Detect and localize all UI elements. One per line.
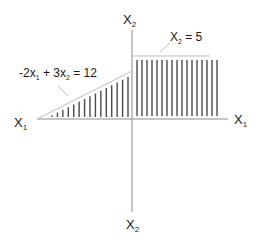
- hatch-left-region: [52, 77, 128, 117]
- x1-left-label: X1: [14, 115, 28, 132]
- constraint-label-x2-eq-5: X2 = 5: [170, 30, 203, 45]
- feasible-region-diagram: X1 X1 X2 X2 -2x1 + 3x2 = 12 X2 = 5: [0, 0, 258, 245]
- hatch-right-region: [137, 60, 217, 116]
- constraint-label-slope: -2x1 + 3x2 = 12: [19, 66, 97, 81]
- leader-line-slope: [58, 86, 68, 96]
- x1-right-label: X1: [234, 112, 248, 129]
- leader-line-x2-eq-5: [160, 43, 170, 52]
- x2-top-label: X2: [123, 12, 137, 29]
- x2-bottom-label: X2: [126, 217, 140, 234]
